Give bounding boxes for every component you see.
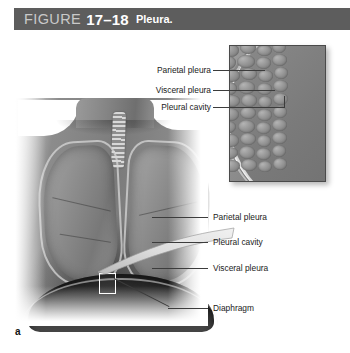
leader-line-inset-visceral: [213, 90, 275, 91]
alveolus: [229, 82, 237, 95]
leader-line-inset-cavity-drop: [284, 96, 285, 108]
alveolus: [229, 45, 239, 57]
pleura-outline-right: [121, 139, 213, 289]
alveolus: [229, 95, 240, 107]
alveolus: [272, 132, 287, 144]
alveolus: [238, 81, 255, 94]
alveolus: [239, 146, 255, 159]
lung-fissure: [52, 197, 111, 212]
torso-silhouette: [12, 98, 208, 326]
alveolus: [257, 83, 272, 95]
alveolus: [240, 45, 256, 54]
lung-right: [126, 144, 207, 284]
alveolus: [229, 147, 238, 159]
inset-label-visceral-pleura: Visceral pleura: [145, 86, 211, 94]
inset-label-pleural-cavity: Pleural cavity: [145, 103, 211, 111]
alveolus: [241, 159, 257, 171]
alveolus: [229, 108, 239, 121]
alveolus: [273, 93, 288, 105]
alveolus: [238, 120, 255, 133]
alveolus: [258, 161, 272, 172]
diaphragm-rim: [22, 278, 218, 328]
alveolus: [272, 119, 287, 131]
figure-container: FIGURE 17–18 Pleura.: [0, 0, 350, 353]
alveolus: [257, 109, 272, 121]
leader-line-inset-parietal: [213, 70, 265, 71]
alveoli-texture: [229, 45, 312, 182]
figure-header-bar: FIGURE 17–18 Pleura.: [14, 8, 350, 30]
panel-letter-a: a: [15, 326, 21, 337]
alveolus: [272, 145, 286, 157]
alveolus: [240, 133, 256, 145]
main-label-parietal-pleura: Parietal pleura: [213, 213, 267, 221]
leader-line-main-diaphragm: [168, 308, 208, 309]
alveolus: [273, 158, 287, 170]
pleura-outline-left: [35, 139, 125, 289]
lung-fissure: [59, 234, 111, 244]
main-label-pleural-cavity: Pleural cavity: [213, 238, 263, 246]
alveolus: [257, 135, 271, 147]
alveolus: [256, 122, 271, 134]
main-label-visceral-pleura: Visceral pleura: [213, 264, 268, 272]
leader-line-main-visceral: [152, 268, 208, 269]
leader-line-main-parietal: [152, 217, 208, 218]
alveolus: [240, 107, 256, 119]
alveolus: [237, 55, 255, 68]
trachea: [111, 112, 126, 168]
detail-callout-box: [99, 273, 116, 294]
figure-number-label: 17–18: [86, 11, 129, 28]
main-label-diaphragm: Diaphragm: [213, 304, 254, 312]
alveolus: [256, 148, 271, 160]
alveolus: [229, 134, 239, 147]
inset-label-parietal-pleura: Parietal pleura: [145, 66, 211, 74]
figure-caption-label: Pleura.: [136, 13, 173, 25]
alveolus: [256, 57, 271, 69]
alveolus: [258, 70, 273, 82]
lung-fissure: [139, 201, 198, 216]
alveolus: [272, 45, 286, 53]
leader-line-inset-cavity: [213, 107, 285, 108]
alveolus: [229, 56, 236, 69]
lung-left: [40, 144, 119, 284]
thorax-illustration: [0, 88, 215, 338]
alveolus: [257, 45, 272, 56]
alveolus: [272, 54, 287, 66]
alveolus: [273, 80, 288, 92]
alveolus: [229, 121, 236, 133]
alveolus: [241, 94, 257, 107]
figure-word-label: FIGURE: [24, 11, 81, 27]
alveolus: [229, 160, 240, 172]
pleura-detail-inset: [229, 45, 326, 182]
leader-line-main-cavity: [152, 242, 208, 243]
alveolus: [274, 67, 288, 79]
